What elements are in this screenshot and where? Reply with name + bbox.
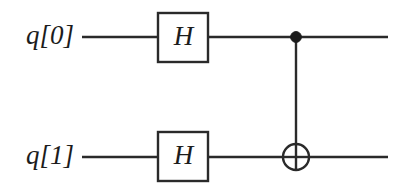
cnot-target-icon[interactable] [283, 144, 309, 170]
quantum-circuit-diagram: q[0] q[1] H H [0, 0, 411, 189]
hadamard-gate-q0[interactable]: H [158, 13, 208, 62]
hadamard-gate-q1[interactable]: H [158, 132, 208, 181]
wire-label-q0: q[0] [26, 20, 74, 50]
hadamard-gate-q0-label: H [173, 21, 195, 51]
wire-label-q1: q[1] [26, 140, 74, 170]
cnot-control-dot-icon[interactable] [291, 32, 302, 43]
circuit-canvas: q[0] q[1] H H [0, 0, 411, 189]
hadamard-gate-q1-label: H [173, 140, 195, 170]
